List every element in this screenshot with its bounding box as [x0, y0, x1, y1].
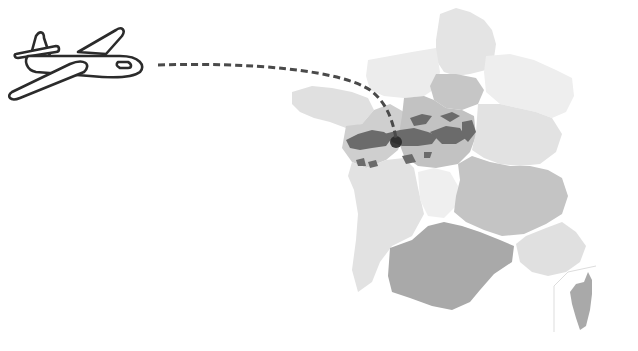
region-bretagne [292, 86, 374, 128]
region-auvergne-rhone-alpes [454, 156, 568, 236]
airplane-icon [9, 28, 142, 99]
france-map-illustration: Flight to the Loire Valley, France [0, 0, 638, 351]
destination-marker [390, 136, 402, 148]
region-normandie [366, 48, 440, 98]
region-limousin [418, 168, 458, 218]
france-map [292, 8, 596, 332]
region-corse [570, 272, 592, 330]
